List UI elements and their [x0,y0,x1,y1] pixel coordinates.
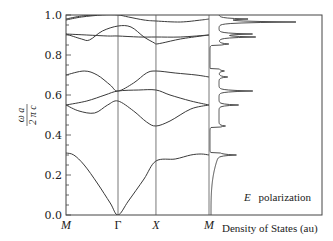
y-tick-label: 1.0 [45,9,63,22]
band-curve [66,90,209,105]
polarization-annotation: E polarization [243,191,312,203]
dos-axis-label: Density of States (au) [222,222,318,235]
polarization-text: polarization [258,191,311,203]
polarization-symbol: E [243,191,251,203]
k-point-label: M [203,218,215,232]
k-point-label: Γ [115,218,122,232]
y-tick-label: 0.4 [45,129,63,142]
k-point-lines [118,15,209,215]
k-point-label: M [60,218,72,232]
dos-line [210,15,296,215]
band-curve [66,71,209,91]
plot-frame [66,15,322,215]
y-tick-label: 0.2 [45,169,63,182]
band-curve [66,101,209,126]
dos-curve [210,15,296,215]
band-curves [66,15,209,215]
band-curve [66,153,209,215]
band-structure-figure: 0.00.20.40.60.81.0 MΓXM ω a 2 π c E pola… [0,0,333,241]
y-label-denominator: 2 π c [27,105,38,125]
k-point-labels: MΓXM [60,218,215,232]
band-curve [66,34,209,37]
y-tick-label: 0.8 [45,49,63,62]
y-tick-label: 0.0 [45,209,63,222]
y-ticks: 0.00.20.40.60.81.0 [45,9,72,222]
k-point-label: X [151,218,160,232]
band-structure-plot: 0.00.20.40.60.81.0 MΓXM ω a 2 π c E pola… [0,0,333,241]
plot-axes [66,15,322,215]
y-tick-label: 0.6 [45,89,63,102]
y-label-numerator: ω a [15,108,26,123]
y-axis-label: ω a 2 π c [15,104,38,126]
